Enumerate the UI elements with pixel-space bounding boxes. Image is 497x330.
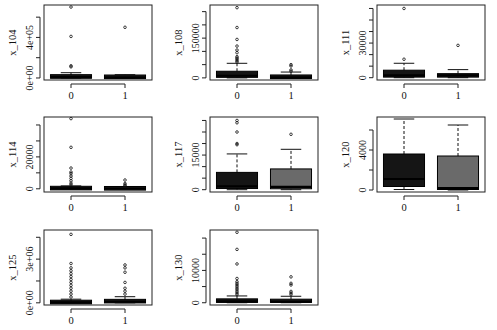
x-tick-label-0: 0 xyxy=(68,315,73,326)
y-axis-label: x_120 xyxy=(340,141,351,167)
boxplot-panel-x_114: 020000x_11401 xyxy=(7,117,152,213)
x-tick-label-1: 1 xyxy=(288,315,293,326)
plot-frame xyxy=(44,5,152,80)
outlier-point xyxy=(70,146,73,149)
x-tick-label-0: 0 xyxy=(401,202,406,213)
x-tick-label-1: 1 xyxy=(122,202,127,213)
y-tick-label: 4e+05 xyxy=(24,25,35,50)
outlier-point xyxy=(70,233,73,236)
y-tick-label: 0 xyxy=(357,75,368,80)
plot-frame xyxy=(210,5,318,80)
x-tick-label-1: 1 xyxy=(455,90,460,101)
box-class-1 xyxy=(270,133,311,190)
y-axis-label: x_104 xyxy=(7,29,18,56)
boxplot-panel-x_130: 010000x_13001 xyxy=(173,230,318,326)
box-class-0 xyxy=(383,7,424,78)
y-tick-label: 0 xyxy=(190,300,201,305)
box-class-0 xyxy=(216,6,257,78)
outlier-point xyxy=(70,284,73,287)
y-tick-label: 0 xyxy=(357,188,368,193)
y-axis-label: x_108 xyxy=(173,29,184,55)
outlier-point xyxy=(236,263,239,266)
outlier-point xyxy=(457,44,460,47)
outlier-point xyxy=(70,287,73,290)
y-tick-label: 150000 xyxy=(190,23,201,53)
y-tick-label: 0e+00 xyxy=(24,290,35,315)
outlier-point xyxy=(124,290,127,293)
outlier-point xyxy=(124,264,127,267)
plot-frame xyxy=(377,5,485,80)
outlier-point xyxy=(236,26,239,29)
outlier-point xyxy=(236,45,239,48)
x-tick-label-0: 0 xyxy=(234,90,239,101)
x-tick-label-1: 1 xyxy=(288,90,293,101)
box-class-1 xyxy=(270,276,311,303)
outlier-point xyxy=(236,119,239,122)
x-tick-label-1: 1 xyxy=(122,90,127,101)
outlier-point xyxy=(70,117,73,120)
outlier-point xyxy=(70,35,73,38)
outlier-point xyxy=(236,38,239,41)
outlier-point xyxy=(236,231,239,234)
x-tick-label-1: 1 xyxy=(288,202,293,213)
box-class-1 xyxy=(437,44,478,78)
outlier-point xyxy=(70,293,73,296)
box-class-0 xyxy=(50,117,91,190)
x-tick-label-0: 0 xyxy=(401,90,406,101)
outlier-point xyxy=(290,133,293,136)
outlier-point xyxy=(70,269,73,272)
x-tick-label-1: 1 xyxy=(455,202,460,213)
boxplot-panel-x_108: 0150000x_10801 xyxy=(173,5,318,101)
box-class-1 xyxy=(104,26,145,79)
y-tick-label: 3e+06 xyxy=(24,247,35,272)
box-class-1 xyxy=(104,264,145,303)
outlier-point xyxy=(70,272,73,275)
box-class-0 xyxy=(50,233,91,304)
box-class-1 xyxy=(270,63,311,78)
outlier-point xyxy=(124,179,127,182)
outlier-point xyxy=(236,49,239,52)
outlier-point xyxy=(124,26,127,29)
boxplot-panel-x_117: 015000x_11701 xyxy=(173,117,318,213)
plot-frame xyxy=(44,230,152,305)
x-tick-label-1: 1 xyxy=(122,315,127,326)
x-tick-label-0: 0 xyxy=(68,90,73,101)
outlier-point xyxy=(124,287,127,290)
outlier-point xyxy=(236,248,239,251)
y-axis-label: x_114 xyxy=(7,141,18,168)
box-class-1 xyxy=(437,125,478,190)
y-tick-label: 0 xyxy=(190,75,201,80)
boxplot-panel-x_111: 030000x_11101 xyxy=(340,5,485,101)
y-axis-label: x_111 xyxy=(340,30,351,55)
y-tick-label: 15000 xyxy=(190,143,201,168)
plot-frame xyxy=(210,230,318,305)
boxplot-grid: 0e+004e+05x_104010150000x_10801030000x_1… xyxy=(0,0,497,330)
outlier-point xyxy=(403,58,406,61)
outlier-point xyxy=(70,262,73,265)
outlier-point xyxy=(70,290,73,293)
outlier-point xyxy=(124,271,127,274)
outlier-point xyxy=(236,131,239,134)
outlier-point xyxy=(70,275,73,278)
outlier-point xyxy=(124,267,127,270)
x-tick-label-0: 0 xyxy=(234,315,239,326)
y-tick-label: 0e+00 xyxy=(24,65,35,90)
box-class-0 xyxy=(216,119,257,190)
y-tick-label: 0 xyxy=(24,186,35,191)
box-class-0 xyxy=(50,6,91,79)
plot-frame xyxy=(44,117,152,192)
outlier-point xyxy=(70,278,73,281)
outlier-point xyxy=(236,51,239,54)
outlier-point xyxy=(124,293,127,296)
box-class-1 xyxy=(104,179,145,190)
boxplot-panel-x_125: 0e+003e+06x_12501 xyxy=(7,230,152,326)
outlier-point xyxy=(70,281,73,284)
y-axis-label: x_125 xyxy=(7,254,18,280)
boxplot-panel-x_104: 0e+004e+05x_10401 xyxy=(7,5,152,101)
y-axis-label: x_130 xyxy=(173,254,184,280)
outlier-point xyxy=(236,6,239,9)
y-axis-label: x_117 xyxy=(173,142,184,168)
y-tick-label: 30000 xyxy=(357,31,368,56)
y-tick-label: 4000 xyxy=(357,140,368,160)
outlier-point xyxy=(70,6,73,9)
